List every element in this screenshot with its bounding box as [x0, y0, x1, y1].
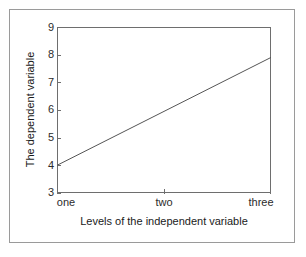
y-tick-label: 8 — [40, 49, 54, 60]
x-axis-tick-labels: one two three — [57, 196, 271, 210]
y-axis-title: The dependent variable — [24, 27, 37, 193]
x-tick-label: one — [57, 196, 75, 208]
y-tick-label: 5 — [40, 132, 54, 143]
y-tick-label: 7 — [40, 77, 54, 88]
figure-root: 9 8 7 6 5 4 3 one two three Levels of th… — [0, 0, 306, 257]
y-tick-label: 9 — [40, 22, 54, 33]
y-axis-tick-labels: 9 8 7 6 5 4 3 — [38, 27, 54, 193]
y-tick-label: 4 — [40, 160, 54, 171]
x-tick-label: three — [248, 196, 273, 208]
data-line-layer — [57, 27, 271, 193]
x-axis-title: Levels of the independent variable — [57, 215, 271, 228]
y-tick-label: 3 — [40, 187, 54, 198]
x-tick-label: two — [155, 196, 172, 208]
y-tick-label: 6 — [40, 104, 54, 115]
data-line-series — [57, 57, 271, 165]
